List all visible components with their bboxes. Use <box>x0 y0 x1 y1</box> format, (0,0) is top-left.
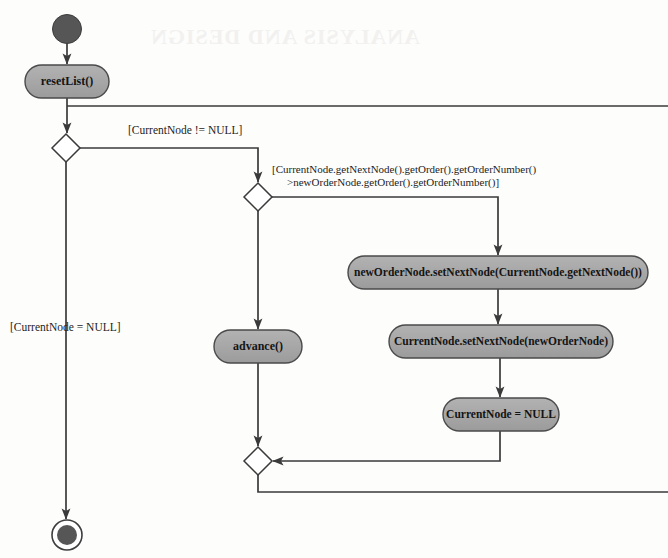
action-node-current-node-set-next-node[interactable]: CurrentNode.setNextNode(newOrderNode) <box>389 325 613 358</box>
flow-action3-to-merge <box>273 431 500 461</box>
action-node-reset-list[interactable]: resetList() <box>25 65 109 98</box>
action-label-reset-list: resetList() <box>41 74 93 88</box>
action-label-current-node-set-next-node: CurrentNode.setNextNode(newOrderNode) <box>394 335 608 348</box>
action-label-advance: advance() <box>233 339 283 353</box>
decision-current-node-null <box>52 134 80 162</box>
guard-label-current-node-not-null: [CurrentNode != NULL] <box>128 124 242 136</box>
flow-merge-to-loopback <box>258 475 668 492</box>
guard-label-order-number-greater-line1: [CurrentNode.getNextNode().getOrder().ge… <box>272 163 537 176</box>
action-node-new-order-node-set-next-node[interactable]: newOrderNode.setNextNode(CurrentNode.get… <box>348 256 648 289</box>
action-node-current-node-null-assign[interactable]: CurrentNode = NULL <box>443 398 559 431</box>
guard-label-current-node-null: [CurrentNode = NULL] <box>10 321 121 333</box>
guard-label-order-number-greater-line2: >newOrderNode.getOrder().getOrderNumber(… <box>287 176 499 189</box>
flow-decision2-true-to-action1 <box>272 197 498 255</box>
initial-node <box>53 15 82 44</box>
action-label-new-order-node-set-next-node: newOrderNode.setNextNode(CurrentNode.get… <box>354 266 642 279</box>
final-node <box>52 520 82 550</box>
decision-order-number-compare <box>244 183 272 211</box>
activity-diagram-canvas: ANALYSIS AND DESIGN <box>0 0 668 558</box>
activity-diagram-svg: resetList() advance() newOrderNode.setNe… <box>0 0 668 558</box>
merge-loop-back <box>244 447 272 475</box>
action-node-advance[interactable]: advance() <box>214 330 302 363</box>
flow-decision1-true-to-decision2 <box>80 148 258 182</box>
action-label-current-node-null-assign: CurrentNode = NULL <box>446 408 556 420</box>
